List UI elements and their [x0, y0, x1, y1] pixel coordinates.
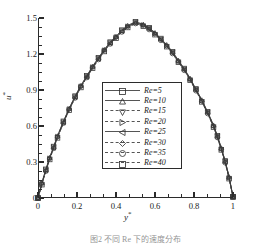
x-tick-minor — [51, 194, 52, 197]
legend-marker-circle-icon — [118, 149, 125, 156]
y-tick-minor — [39, 189, 42, 190]
x-tick-minor — [181, 194, 182, 197]
y-tick-major — [39, 161, 44, 162]
legend-label: Re=20 — [140, 117, 166, 126]
y-tick-minor — [39, 81, 42, 82]
y-axis-title: u* — [1, 92, 13, 100]
legend-item-re-40[interactable]: Re=40 — [103, 158, 181, 168]
y-tick-label: 0.3 — [7, 158, 37, 167]
legend-item-re-5[interactable]: Re=5 — [103, 85, 181, 95]
legend-sample — [105, 137, 140, 147]
legend-marker-triangle-up-icon — [118, 97, 125, 104]
axis-spine-bottom — [38, 197, 233, 198]
y-tick-minor — [39, 27, 42, 28]
legend-item-re-30[interactable]: Re=30 — [103, 137, 181, 147]
y-tick-major — [39, 53, 44, 54]
legend-label: Re=10 — [140, 96, 166, 105]
legend-label: Re=40 — [140, 158, 166, 167]
x-tick-minor — [90, 194, 91, 197]
legend-item-re-25[interactable]: Re=25 — [103, 127, 181, 137]
legend-marker-triangle-down-icon — [118, 108, 125, 115]
x-axis-title-superscript: * — [128, 210, 132, 218]
legend-sample — [105, 158, 140, 168]
y-axis-title-superscript: * — [1, 92, 9, 96]
legend-label: Re=30 — [140, 138, 166, 147]
x-tick-minor — [64, 194, 65, 197]
legend-sample — [105, 127, 140, 137]
x-tick-label: 0.8 — [182, 202, 206, 211]
y-tick-label: 0.6 — [7, 122, 37, 131]
y-tick-minor — [39, 45, 42, 46]
y-tick-minor — [39, 171, 42, 172]
y-axis-title-text: u — [3, 96, 13, 101]
x-tick-label: 1 — [221, 202, 245, 211]
legend-marker-triangle-right-icon — [118, 118, 125, 125]
x-tick-minor — [220, 194, 221, 197]
x-tick-minor — [168, 194, 169, 197]
x-tick-minor — [103, 194, 104, 197]
y-tick-minor — [39, 135, 42, 136]
y-tick-minor — [39, 72, 42, 73]
y-tick-label: 0 — [7, 194, 37, 203]
y-tick-major — [39, 197, 44, 198]
x-tick-minor — [207, 194, 208, 197]
legend-sample — [105, 116, 140, 126]
y-tick-minor — [39, 144, 42, 145]
y-tick-major — [39, 125, 44, 126]
legend-sample — [105, 106, 140, 116]
x-axis-title: y* — [124, 210, 132, 222]
figure-caption: 图2 不同 Re 下的速度分布 — [0, 233, 271, 244]
legend-marker-square-icon — [118, 160, 125, 167]
x-tick-major — [154, 192, 155, 197]
y-tick-major — [39, 17, 44, 18]
x-tick-major — [76, 192, 77, 197]
x-tick-label: 0.6 — [143, 202, 167, 211]
x-tick-major — [232, 192, 233, 197]
y-tick-minor — [39, 99, 42, 100]
legend-item-re-10[interactable]: Re=10 — [103, 95, 181, 105]
x-tick-major — [115, 192, 116, 197]
legend-label: Re=5 — [140, 86, 162, 95]
y-tick-minor — [39, 108, 42, 109]
x-tick-minor — [129, 194, 130, 197]
x-tick-label: 0.2 — [65, 202, 89, 211]
legend-marker-triangle-left-icon — [118, 128, 125, 135]
x-tick-label: 0 — [26, 202, 50, 211]
y-tick-label: 1.2 — [7, 50, 37, 59]
figure-velocity-profile: 00.30.60.91.21.5 00.20.40.60.81 u* y* Re… — [0, 0, 271, 244]
legend-box: Re=5Re=10Re=15Re=20Re=25Re=30Re=35Re=40 — [102, 82, 182, 169]
y-tick-label: 1.5 — [7, 14, 37, 23]
legend-label: Re=25 — [140, 127, 166, 136]
y-tick-minor — [39, 117, 42, 118]
y-tick-minor — [39, 36, 42, 37]
x-tick-major — [37, 192, 38, 197]
legend-marker-square-icon — [118, 87, 125, 94]
x-tick-major — [193, 192, 194, 197]
legend-sample — [105, 85, 140, 95]
legend-sample — [105, 148, 140, 158]
legend-item-re-15[interactable]: Re=15 — [103, 106, 181, 116]
legend-marker-diamond-icon — [118, 139, 125, 146]
legend-label: Re=15 — [140, 106, 166, 115]
y-tick-minor — [39, 63, 42, 64]
legend-item-re-35[interactable]: Re=35 — [103, 147, 181, 157]
y-tick-minor — [39, 180, 42, 181]
y-tick-minor — [39, 153, 42, 154]
y-tick-major — [39, 89, 44, 90]
x-tick-minor — [142, 194, 143, 197]
legend-label: Re=35 — [140, 148, 166, 157]
legend-item-re-20[interactable]: Re=20 — [103, 116, 181, 126]
legend-sample — [105, 96, 140, 106]
